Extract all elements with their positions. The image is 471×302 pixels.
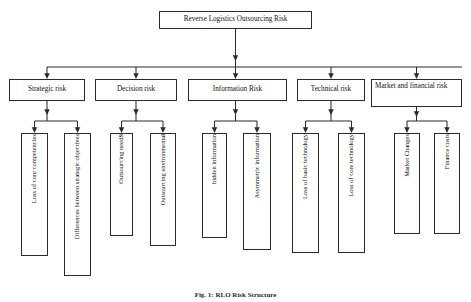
node-loss-of-core-competencies[interactable]: Loss of core competencies bbox=[21, 133, 48, 256]
node-market-changes[interactable]: Market Changes bbox=[394, 133, 420, 234]
node-outsourcing-needs-label: Outsourcing needS bbox=[118, 134, 124, 187]
node-loss-of-core-technology[interactable]: Loss of core technology bbox=[338, 133, 365, 253]
node-differences-strategic-objectives-label: Differences between strategic objectives bbox=[74, 134, 80, 242]
node-finance-costs[interactable]: Finance costs bbox=[434, 133, 460, 234]
node-strategic-risk[interactable]: Strategic risk bbox=[9, 79, 85, 101]
node-decision-risk-label: Decision risk bbox=[117, 85, 155, 95]
node-decision-risk[interactable]: Decision risk bbox=[95, 79, 177, 101]
node-technical-risk[interactable]: Technical risk bbox=[297, 79, 365, 101]
node-outsourcing-needs-bold-tail: S bbox=[117, 134, 124, 138]
node-market-financial-risk-label: Market and financial risk bbox=[375, 82, 447, 92]
node-root[interactable]: Reverse Logistics Outsourcing Risk bbox=[159, 11, 312, 29]
node-loss-of-core-competencies-label: Loss of core competencies bbox=[31, 134, 37, 206]
node-market-financial-risk[interactable]: Market and financial risk bbox=[371, 79, 462, 107]
figure-caption: Fig. 1: RLO Risk Structure bbox=[0, 291, 471, 299]
node-loss-of-basic-technology[interactable]: Loss of basic technology bbox=[292, 133, 319, 253]
node-hidden-information[interactable]: hidden information bbox=[202, 133, 227, 238]
node-strategic-risk-label: Strategic risk bbox=[28, 85, 66, 95]
node-outsourcing-environmental[interactable]: Outsourcing environmental bbox=[150, 133, 176, 246]
node-information-risk-label: Information Risk bbox=[213, 85, 262, 95]
node-loss-of-basic-technology-label: Loss of basic technology bbox=[302, 134, 308, 202]
node-finance-costs-label: Finance costs bbox=[444, 134, 450, 172]
figure-canvas: Reverse Logistics Outsourcing Risk Strat… bbox=[0, 0, 471, 302]
node-asymmetric-information[interactable]: Asymmetric information bbox=[243, 133, 271, 250]
node-technical-risk-label: Technical risk bbox=[311, 85, 351, 95]
node-asymmetric-information-label: Asymmetric information bbox=[254, 134, 260, 201]
node-information-risk[interactable]: Information Risk bbox=[188, 79, 287, 101]
node-outsourcing-needs[interactable]: Outsourcing needS bbox=[110, 133, 133, 236]
node-root-label: Reverse Logistics Outsourcing Risk bbox=[184, 15, 288, 25]
node-outsourcing-environmental-label: Outsourcing environmental bbox=[160, 134, 166, 208]
node-hidden-information-label: hidden information bbox=[211, 134, 217, 187]
node-market-changes-label: Market Changes bbox=[404, 134, 410, 180]
node-differences-strategic-objectives[interactable]: Differences between strategic objectives bbox=[64, 133, 91, 276]
node-loss-of-core-technology-label: Loss of core technology bbox=[348, 134, 354, 200]
